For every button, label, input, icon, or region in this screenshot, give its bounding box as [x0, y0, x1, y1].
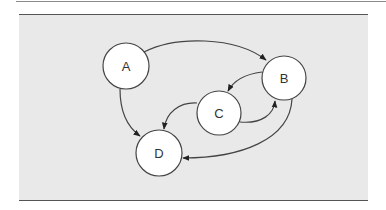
- edge-a-to-d: [120, 89, 140, 136]
- node-c: C: [197, 91, 241, 135]
- node-c-label: C: [214, 106, 223, 121]
- node-d: D: [136, 130, 182, 176]
- graph-diagram: A B C D: [0, 0, 386, 210]
- node-a-label: A: [122, 59, 131, 74]
- node-b-label: B: [280, 71, 289, 86]
- node-d-label: D: [154, 146, 163, 161]
- edge-a-to-b: [144, 41, 266, 60]
- node-b: B: [262, 56, 306, 100]
- node-a: A: [103, 43, 149, 89]
- edge-c-to-b: [240, 101, 275, 122]
- edge-b-to-c: [228, 72, 262, 91]
- edge-c-to-d: [164, 103, 197, 129]
